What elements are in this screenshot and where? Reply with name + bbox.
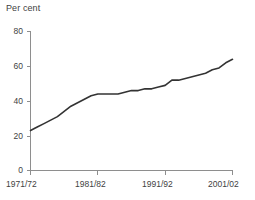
x-axis-label-1981-82: 1981/82 xyxy=(75,180,106,189)
y-axis-label-60: 60 xyxy=(3,62,23,71)
y-axis-label-80: 80 xyxy=(3,27,23,36)
chart-plot-area xyxy=(0,0,255,200)
chart-container: Per cent 80 60 40 20 0 1971/72 1981/82 1… xyxy=(0,0,255,200)
y-tick-marks xyxy=(27,32,31,171)
x-tick-marks xyxy=(31,171,233,176)
y-axis-label-0: 0 xyxy=(3,166,23,175)
data-series-line xyxy=(31,59,233,130)
axis-group xyxy=(31,31,233,171)
x-axis-label-2001-02: 2001/02 xyxy=(208,180,239,189)
x-axis-label-1991-92: 1991/92 xyxy=(142,180,173,189)
x-axis-label-1971-72: 1971/72 xyxy=(6,180,37,189)
y-axis-label-20: 20 xyxy=(3,132,23,141)
y-axis-label-40: 40 xyxy=(3,97,23,106)
